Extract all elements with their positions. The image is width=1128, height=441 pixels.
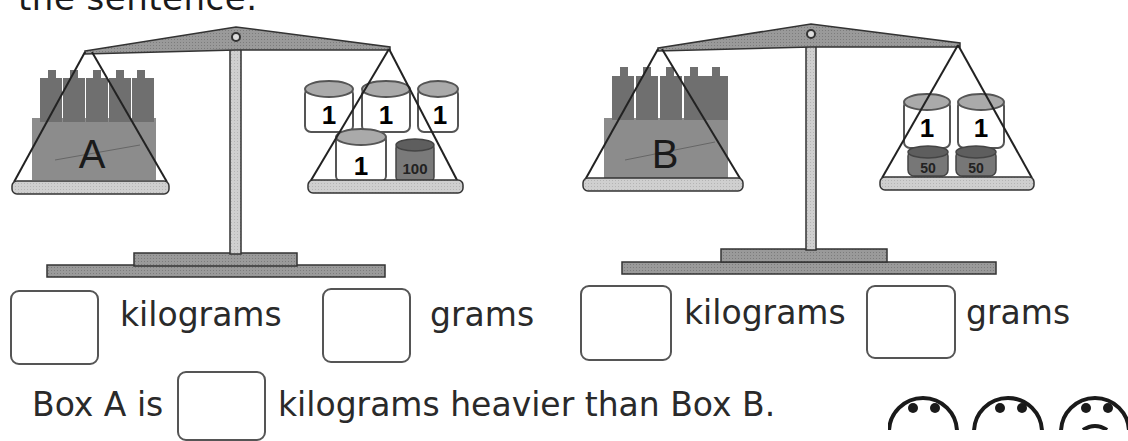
svg-text:50: 50 bbox=[920, 160, 936, 176]
kilograms-label: kilograms bbox=[120, 295, 282, 334]
grams-label: grams bbox=[966, 293, 1070, 332]
neutral-face-icon[interactable] bbox=[974, 398, 1042, 430]
comparison-suffix: kilograms heavier than Box B. bbox=[278, 385, 775, 424]
comparison-kilograms-input[interactable] bbox=[177, 371, 266, 441]
balance-scales-illustration: A 1 1 1 1 100 bbox=[0, 0, 1127, 290]
box-a: A bbox=[32, 70, 156, 180]
grams-label: grams bbox=[430, 295, 534, 334]
svg-text:1: 1 bbox=[920, 113, 934, 143]
weights-b: 1 1 50 50 bbox=[904, 94, 1004, 176]
box-b-grams-input[interactable] bbox=[866, 285, 956, 359]
svg-text:1: 1 bbox=[379, 100, 393, 130]
box-a-grams-input[interactable] bbox=[322, 288, 411, 363]
scale-a: A 1 1 1 1 100 bbox=[12, 27, 463, 277]
self-assessment-faces bbox=[888, 390, 1128, 430]
scale-b: B 1 1 50 50 bbox=[583, 24, 1034, 274]
box-b: B bbox=[604, 67, 728, 178]
kilograms-label: kilograms bbox=[684, 293, 846, 332]
sad-face-icon[interactable] bbox=[1061, 398, 1128, 430]
svg-text:1: 1 bbox=[974, 113, 988, 143]
comparison-prefix: Box A is bbox=[32, 385, 163, 424]
svg-text:1: 1 bbox=[354, 151, 368, 181]
box-b-kilograms-input[interactable] bbox=[580, 285, 672, 361]
happy-face-icon[interactable] bbox=[889, 398, 957, 430]
svg-text:50: 50 bbox=[968, 160, 984, 176]
svg-text:1: 1 bbox=[433, 100, 447, 130]
svg-text:1: 1 bbox=[322, 100, 336, 130]
svg-text:100: 100 bbox=[402, 160, 427, 177]
box-a-kilograms-input[interactable] bbox=[10, 290, 99, 365]
svg-text:B: B bbox=[652, 132, 679, 176]
weights-a: 1 1 1 1 100 bbox=[305, 81, 458, 181]
svg-text:A: A bbox=[79, 132, 106, 176]
